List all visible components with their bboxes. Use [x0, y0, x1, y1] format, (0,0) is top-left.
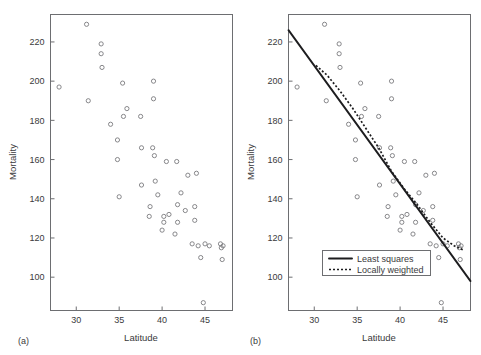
scatter-point	[152, 154, 156, 158]
scatter-point	[153, 179, 157, 183]
scatter-point	[193, 205, 197, 209]
scatter-point	[390, 154, 394, 158]
y-tick-label: 220	[267, 37, 282, 47]
y-tick-label: 180	[29, 116, 44, 126]
scatter-point	[173, 232, 177, 236]
scatter-point	[363, 106, 367, 110]
panel-a-x-tick-labels: 30354045	[71, 315, 210, 325]
scatter-point	[413, 220, 417, 224]
panel-b-x-tick-labels: 30354045	[309, 315, 448, 325]
x-tick-label: 35	[114, 315, 124, 325]
y-tick-label: 180	[267, 116, 282, 126]
legend-label-least-squares: Least squares	[357, 254, 414, 264]
scatter-point	[389, 146, 393, 150]
scatter-point	[57, 85, 61, 89]
scatter-point	[385, 214, 389, 218]
scatter-point	[386, 205, 390, 209]
scatter-point	[402, 159, 406, 163]
panel-a-x-ticks	[76, 307, 205, 311]
scatter-point	[417, 191, 421, 195]
panel-a: 100120140160180200220 30354045 Latitude …	[7, 15, 233, 347]
panel-a-caption: (a)	[18, 336, 29, 346]
scatter-point	[148, 205, 152, 209]
x-tick-label: 30	[71, 315, 81, 325]
scatter-point	[201, 301, 205, 305]
y-tick-label: 140	[267, 194, 282, 204]
scatter-point	[139, 183, 143, 187]
scatter-point	[203, 242, 207, 246]
scatter-point	[400, 214, 404, 218]
x-tick-label: 40	[157, 315, 167, 325]
scatter-point	[121, 81, 125, 85]
scatter-point	[156, 193, 160, 197]
scatter-point	[398, 228, 402, 232]
panel-a-y-tick-labels: 100120140160180200220	[29, 37, 44, 282]
y-tick-label: 120	[29, 233, 44, 243]
figure-svg: 100120140160180200220 30354045 Latitude …	[0, 0, 481, 355]
scatter-point	[400, 220, 404, 224]
scatter-point	[193, 218, 197, 222]
scatter-point	[355, 195, 359, 199]
scatter-point	[458, 257, 462, 261]
scatter-point	[99, 42, 103, 46]
y-tick-label: 120	[267, 233, 282, 243]
locally-weighted-fit-line	[316, 65, 463, 249]
panel-b: 100120140160180200220 30354045 Least squ…	[245, 15, 471, 347]
y-tick-label: 100	[267, 272, 282, 282]
scatter-point	[84, 22, 88, 26]
scatter-point	[151, 146, 155, 150]
scatter-point	[432, 171, 436, 175]
x-tick-label: 45	[200, 315, 210, 325]
scatter-point	[353, 138, 357, 142]
scatter-point	[162, 220, 166, 224]
scatter-point	[394, 193, 398, 197]
panel-b-legend: Least squares Locally weighted	[323, 251, 431, 276]
scatter-point	[186, 173, 190, 177]
scatter-point	[424, 173, 428, 177]
x-tick-label: 45	[438, 315, 448, 325]
scatter-point	[431, 205, 435, 209]
scatter-point	[220, 257, 224, 261]
scatter-point	[389, 97, 393, 101]
scatter-point	[411, 232, 415, 236]
panel-b-x-ticks	[314, 307, 443, 311]
scatter-point	[199, 255, 203, 259]
y-tick-label: 100	[29, 272, 44, 282]
x-tick-label: 35	[352, 315, 362, 325]
panel-b-caption: (b)	[250, 336, 261, 346]
scatter-point	[346, 122, 350, 126]
scatter-point	[391, 179, 395, 183]
scatter-point	[151, 97, 155, 101]
scatter-point	[147, 214, 151, 218]
scatter-point	[175, 203, 179, 207]
scatter-point	[179, 191, 183, 195]
scatter-point	[377, 114, 381, 118]
scatter-point	[99, 52, 103, 56]
scatter-point	[160, 228, 164, 232]
panel-b-y-tick-labels: 100120140160180200220	[267, 37, 282, 282]
panel-b-y-ticks	[289, 42, 293, 277]
scatter-point	[337, 42, 341, 46]
y-tick-label: 140	[29, 194, 44, 204]
scatter-point	[108, 122, 112, 126]
y-tick-label: 220	[29, 37, 44, 47]
y-tick-label: 160	[29, 155, 44, 165]
scatter-point	[115, 157, 119, 161]
scatter-point	[437, 255, 441, 259]
scatter-point	[164, 159, 168, 163]
x-tick-label: 40	[395, 315, 405, 325]
scatter-point	[139, 114, 143, 118]
scatter-point	[115, 138, 119, 142]
figure-container: 100120140160180200220 30354045 Latitude …	[0, 0, 481, 355]
scatter-point	[413, 159, 417, 163]
scatter-point	[86, 99, 90, 103]
scatter-point	[139, 146, 143, 150]
scatter-point	[359, 81, 363, 85]
scatter-point	[377, 183, 381, 187]
scatter-point	[125, 106, 129, 110]
scatter-point	[353, 157, 357, 161]
scatter-point	[194, 171, 198, 175]
scatter-point	[151, 79, 155, 83]
panel-a-x-axis-label: Latitude	[124, 332, 158, 343]
y-tick-label: 160	[267, 155, 282, 165]
